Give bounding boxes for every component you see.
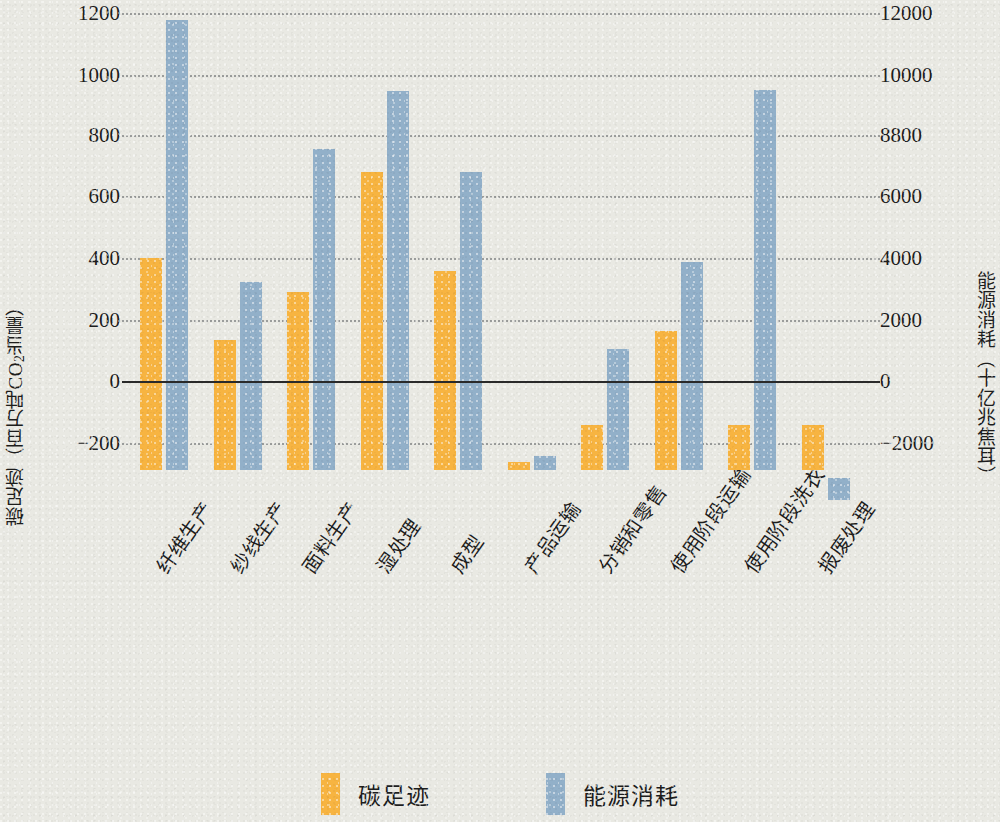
bar-energy-consumption — [754, 90, 776, 470]
bar-group — [508, 0, 556, 470]
x-axis-label: 分销和零售 — [590, 478, 673, 579]
legend-swatch — [321, 773, 340, 815]
plot-area — [122, 0, 880, 470]
y-axis-left-tick-label: 600 — [0, 186, 120, 207]
x-axis-label: 纤维生产 — [148, 495, 219, 579]
legend-item[interactable]: 碳足迹 — [321, 773, 430, 815]
y-axis-right-tick-label: 6000 — [880, 186, 1000, 207]
zero-line — [122, 381, 880, 383]
bar-energy-consumption — [460, 172, 482, 470]
bar-carbon-footprint — [802, 425, 824, 470]
bar-energy-consumption — [166, 20, 188, 470]
bar-energy-consumption — [607, 349, 629, 470]
x-axis-label: 纱线生产 — [222, 495, 293, 579]
bar-group — [655, 0, 703, 470]
y-axis-right-tick-label: 8800 — [880, 125, 1000, 146]
bar-carbon-footprint — [655, 331, 677, 470]
y-axis-right-ticks: 120001000088006000400020000−2000 — [880, 0, 1000, 822]
y-axis-left-tick-label: 1000 — [0, 65, 120, 86]
bar-group — [287, 0, 335, 470]
bar-energy-consumption — [828, 478, 850, 500]
bar-energy-consumption — [534, 456, 556, 470]
y-axis-left-tick-label: 0 — [0, 371, 120, 392]
bar-group — [214, 0, 262, 470]
y-axis-right-tick-label: 12000 — [880, 3, 1000, 24]
chart-legend: 碳足迹能源消耗 — [0, 766, 1000, 822]
bar-group — [361, 0, 409, 470]
y-axis-right-tick-label: 10000 — [880, 65, 1000, 86]
y-axis-right-tick-label: −2000 — [880, 433, 1000, 454]
bar-carbon-footprint — [728, 425, 750, 470]
chart-root: 碳足迹（百万吨CO2当量） 能源消耗（十亿兆焦耳） 12001000800600… — [0, 0, 1000, 822]
bar-carbon-footprint — [361, 172, 383, 470]
bar-group — [802, 0, 850, 470]
legend-item[interactable]: 能源消耗 — [546, 773, 679, 815]
bar-carbon-footprint — [214, 340, 236, 470]
bar-energy-consumption — [313, 149, 335, 470]
x-axis-labels: 纤维生产纱线生产面料生产湿处理成型产品运输分销和零售使用阶段运输使用阶段洗衣报废… — [122, 470, 880, 680]
x-axis-label: 湿处理 — [368, 512, 427, 579]
legend-label: 碳足迹 — [358, 777, 430, 811]
bar-group — [728, 0, 776, 470]
y-axis-left-tick-label: 800 — [0, 125, 120, 146]
x-axis-label: 产品运输 — [516, 495, 587, 579]
bar-carbon-footprint — [434, 271, 456, 470]
legend-swatch — [546, 773, 565, 815]
y-axis-left-tick-label: 400 — [0, 248, 120, 269]
y-axis-left-tick-label: −200 — [0, 433, 120, 454]
bar-energy-consumption — [240, 282, 262, 470]
y-axis-left-tick-label: 1200 — [0, 3, 120, 24]
x-axis-label: 面料生产 — [294, 495, 365, 579]
bar-energy-consumption — [681, 262, 703, 470]
legend-label: 能源消耗 — [583, 777, 679, 811]
bar-carbon-footprint — [508, 462, 530, 470]
bar-carbon-footprint — [581, 425, 603, 470]
y-axis-left-tick-label: 200 — [0, 310, 120, 331]
x-axis-label: 成型 — [442, 528, 489, 578]
y-axis-right-tick-label: 0 — [880, 371, 1000, 392]
x-axis-label: 报废处理 — [810, 495, 881, 579]
y-axis-right-tick-label: 2000 — [880, 310, 1000, 331]
y-axis-right-tick-label: 4000 — [880, 248, 1000, 269]
bar-carbon-footprint — [140, 258, 162, 470]
bar-energy-consumption — [387, 91, 409, 470]
y-axis-left-ticks: 120010008006004002000−200 — [0, 0, 120, 822]
bar-group — [581, 0, 629, 470]
bar-group — [434, 0, 482, 470]
bar-group — [140, 0, 188, 470]
